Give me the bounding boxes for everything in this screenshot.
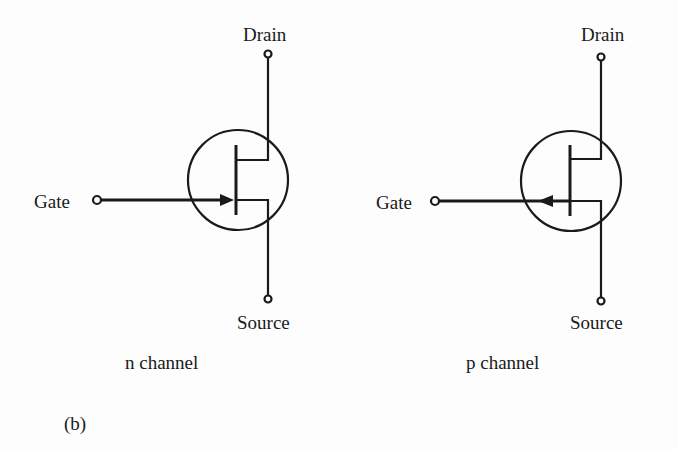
gate-terminal <box>93 196 101 204</box>
source-lead <box>570 201 601 297</box>
drain-terminal <box>265 51 272 58</box>
source-terminal <box>265 296 272 303</box>
device-circle <box>188 130 288 230</box>
gate-arrow-outward-icon <box>538 195 553 207</box>
source-lead <box>236 200 268 296</box>
drain-terminal <box>598 54 605 61</box>
p-channel-caption: p channel <box>466 353 539 372</box>
n-drain-label: Drain <box>243 25 286 44</box>
p-drain-label: Drain <box>581 25 624 44</box>
p-gate-label: Gate <box>376 193 412 212</box>
drain-lead <box>570 60 601 159</box>
figure-label: (b) <box>64 414 86 433</box>
jfet-symbols-diagram <box>0 0 678 450</box>
drain-lead <box>236 57 268 160</box>
n-channel-jfet-symbol <box>93 51 288 303</box>
gate-arrow-inward-icon <box>220 194 234 206</box>
source-terminal <box>598 298 605 305</box>
p-source-label: Source <box>570 313 623 332</box>
n-gate-label: Gate <box>34 192 70 211</box>
n-source-label: Source <box>237 313 290 332</box>
n-channel-caption: n channel <box>125 353 198 372</box>
gate-terminal <box>431 197 439 205</box>
p-channel-jfet-symbol <box>431 54 621 305</box>
